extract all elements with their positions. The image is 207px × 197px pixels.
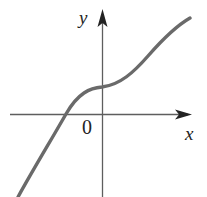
cubic-curve	[18, 18, 190, 197]
x-axis-label: x	[185, 124, 193, 143]
plot-canvas	[0, 0, 207, 197]
origin-label: 0	[82, 117, 92, 137]
y-axis-label: y	[79, 8, 87, 27]
graph-figure: y x 0	[0, 0, 207, 197]
